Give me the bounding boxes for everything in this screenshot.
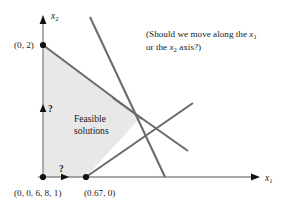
question-mark-vertical: ?: [48, 104, 53, 114]
y-axis-label: x2: [50, 11, 59, 22]
feasible-region-figure: x2 x1 (0, 2) (0, 0, 6, 8, 1) (0.67, 0) ?…: [0, 0, 281, 205]
x-axis-label: x1: [264, 173, 273, 184]
label-vertex-067-0: (0.67, 0): [84, 188, 115, 198]
label-vertex-0-2: (0, 2): [14, 40, 34, 50]
note-line-2: or the x2 axis?): [146, 42, 201, 53]
diagram-canvas: x2 x1 (0, 2) (0, 0, 6, 8, 1) (0.67, 0) ?…: [0, 0, 281, 205]
vertex-dot-origin: [40, 174, 46, 180]
feasible-region-shading: [43, 45, 140, 177]
vertex-dot-067-0: [83, 174, 89, 180]
feasible-solutions-label-line2: solutions: [74, 125, 109, 136]
question-mark-horizontal: ?: [59, 164, 64, 174]
vertex-dot-0-2: [40, 42, 46, 48]
note-line-1: (Should we move along the x1: [146, 29, 257, 40]
feasible-solutions-label-line1: Feasible: [74, 113, 106, 124]
label-vertex-origin: (0, 0, 6, 8, 1): [14, 188, 61, 198]
